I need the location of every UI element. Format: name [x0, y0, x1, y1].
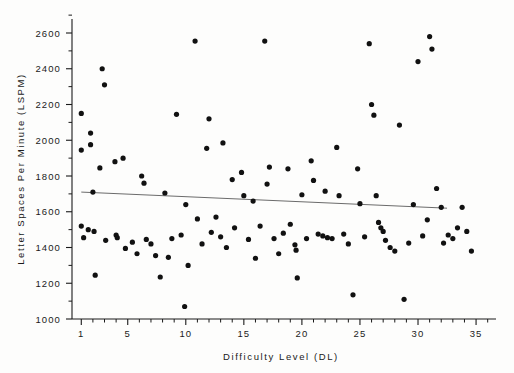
data-point	[369, 102, 374, 107]
data-point	[329, 236, 334, 241]
data-point	[374, 193, 379, 198]
x-tick-label: 5	[125, 328, 131, 339]
x-axis-title: Difficulty Level (DL)	[223, 351, 339, 362]
y-tick-label: 1800	[35, 171, 61, 182]
data-point	[162, 190, 167, 195]
data-point	[376, 220, 381, 225]
data-point	[230, 177, 235, 182]
data-point	[179, 232, 184, 237]
data-point	[192, 38, 197, 43]
data-point	[469, 248, 474, 253]
data-point	[246, 237, 251, 242]
data-point	[141, 181, 146, 186]
y-tick-label: 2600	[35, 28, 61, 39]
data-point	[336, 193, 341, 198]
data-point	[166, 255, 171, 260]
data-point	[182, 304, 187, 309]
data-point	[81, 235, 86, 240]
data-point	[362, 234, 367, 239]
data-point	[186, 263, 191, 268]
data-point	[285, 166, 290, 171]
data-point	[174, 112, 179, 117]
data-point	[295, 275, 300, 280]
data-point	[397, 122, 402, 127]
data-point	[355, 166, 360, 171]
data-point	[90, 189, 95, 194]
data-point	[460, 205, 465, 210]
data-point	[299, 192, 304, 197]
data-point	[367, 41, 372, 46]
y-tick-label: 1600	[35, 206, 61, 217]
data-point	[450, 236, 455, 241]
y-tick-label: 1400	[35, 242, 61, 253]
x-tick-label: 25	[354, 328, 367, 339]
data-point	[309, 158, 314, 163]
data-point	[199, 241, 204, 246]
data-point	[281, 231, 286, 236]
data-point	[88, 142, 93, 147]
data-point	[213, 215, 218, 220]
data-point	[293, 248, 298, 253]
data-point	[311, 178, 316, 183]
data-point	[93, 273, 98, 278]
y-axis-title: Letter Spaces Per Minute (LSPM)	[15, 73, 26, 265]
data-point	[381, 229, 386, 234]
data-point	[103, 238, 108, 243]
data-point	[392, 248, 397, 253]
tick-labels-group: 1000120014001600180020002200240026001510…	[35, 28, 482, 340]
data-point	[206, 116, 211, 121]
x-tick-label: 30	[412, 328, 425, 339]
data-point	[383, 238, 388, 243]
data-point	[276, 251, 281, 256]
data-point	[267, 164, 272, 169]
data-point	[262, 38, 267, 43]
data-point	[288, 222, 293, 227]
y-tick-label: 2400	[35, 63, 61, 74]
x-tick-label: 10	[179, 328, 192, 339]
ticks-group	[66, 15, 488, 325]
data-point	[102, 82, 107, 87]
x-tick-label: 20	[296, 328, 309, 339]
data-point	[388, 245, 393, 250]
data-point	[123, 246, 128, 251]
data-point	[169, 236, 174, 241]
data-point	[251, 198, 256, 203]
data-point	[455, 225, 460, 230]
regression-line	[81, 192, 447, 208]
data-point	[425, 217, 430, 222]
data-point	[91, 229, 96, 234]
data-point	[97, 165, 102, 170]
data-point	[341, 231, 346, 236]
data-point	[357, 201, 362, 206]
data-point	[464, 229, 469, 234]
data-point	[120, 156, 125, 161]
data-point	[346, 241, 351, 246]
plot-canvas: 1000120014001600180020002200240026001510…	[0, 0, 514, 373]
data-point	[204, 146, 209, 151]
data-point	[241, 193, 246, 198]
data-point	[100, 66, 105, 71]
data-point	[209, 230, 214, 235]
data-point	[153, 253, 158, 258]
data-point	[79, 223, 84, 228]
data-point	[323, 189, 328, 194]
data-point	[130, 240, 135, 245]
data-point	[239, 170, 244, 175]
data-point	[271, 236, 276, 241]
data-point	[292, 242, 297, 247]
data-point	[148, 241, 153, 246]
data-point	[88, 131, 93, 136]
x-tick-label: 1	[78, 328, 84, 339]
data-point	[411, 202, 416, 207]
scatter-plot-figure: 1000120014001600180020002200240026001510…	[0, 0, 514, 373]
data-point	[325, 235, 330, 240]
y-tick-label: 2200	[35, 99, 61, 110]
x-tick-label: 15	[237, 328, 250, 339]
data-point	[434, 186, 439, 191]
y-tick-label: 1200	[35, 278, 61, 289]
data-point	[350, 292, 355, 297]
data-point	[139, 173, 144, 178]
x-tick-label: 35	[470, 328, 483, 339]
data-point	[401, 297, 406, 302]
data-point	[253, 256, 258, 261]
